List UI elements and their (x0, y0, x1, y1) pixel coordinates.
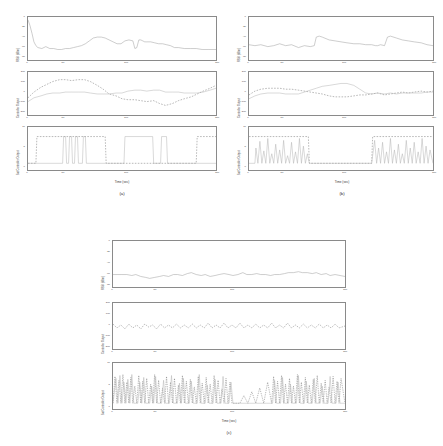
figure-root: RSSI (dBm) 0 -20 -40 -60 -80 0 50 100 15… (0, 0, 443, 446)
a-sat-xtick-1: 50 (59, 172, 67, 175)
b-rssi-panel (248, 16, 434, 61)
b-rssi-ytick-1: -20 (235, 26, 246, 29)
c-sat-xtick-3: 150 (341, 411, 349, 414)
c-sat-xtick-0: 0 (108, 411, 116, 414)
c-sat-panel (112, 362, 346, 410)
b-sat-xtick-0: 0 (244, 172, 252, 175)
a-caption: (a) (92, 192, 152, 196)
c-sat-xtick-2: 100 (228, 411, 236, 414)
c-sat-ytick-0: 10 (99, 362, 110, 365)
a-rssi-ytick-4: -80 (14, 56, 25, 59)
b-controller-panel (248, 71, 434, 116)
c-rssi-ytick-4: -80 (99, 284, 110, 287)
c-controller-ytick-1: 100 (97, 313, 110, 316)
c-controller-xtick-1: 50 (151, 351, 159, 354)
b-sat-xtick-1: 50 (278, 172, 286, 175)
b-sat-panel (248, 126, 434, 171)
c-rssi-xtick-1: 50 (151, 289, 159, 292)
c-rssi-xtick-3: 150 (341, 289, 349, 292)
c-controller-ytick-4: -200 (97, 346, 110, 349)
b-controller-ytick-3: -100 (233, 101, 246, 104)
c-sat-xtick-1: 50 (151, 411, 159, 414)
b-caption: (b) (312, 192, 372, 196)
subfigure-c: RSSI (dBm) 0 -20 -40 -60 -80 0 50 100 15… (88, 232, 355, 432)
c-sat-ytick-2: 0 (99, 406, 110, 409)
c-controller-ytick-0: 200 (97, 302, 110, 305)
b-rssi-ytick-4: -80 (235, 56, 246, 59)
a-rssi-ytick-1: -20 (14, 26, 25, 29)
c-xlabel: Time (sec) (199, 420, 259, 423)
a-rssi-ytick-2: -40 (14, 36, 25, 39)
b-rssi-xtick-0: 0 (244, 62, 252, 65)
a-rssi-xtick-2: 100 (122, 62, 130, 65)
b-controller-ytick-2: 0 (233, 91, 246, 94)
c-controller-panel (112, 302, 346, 350)
b-xlabel: Time (sec) (312, 181, 372, 184)
c-caption: (c) (199, 431, 259, 435)
a-controller-panel (27, 71, 217, 116)
b-controller-xtick-0: 0 (244, 117, 252, 120)
a-controller-xtick-2: 100 (122, 117, 130, 120)
b-sat-ytick-0: 10 (235, 126, 246, 129)
a-controller-xtick-0: 0 (23, 117, 31, 120)
b-rssi-xtick-3: 150 (430, 62, 438, 65)
subfigure-a: RSSI (dBm) 0 -20 -40 -60 -80 0 50 100 15… (0, 0, 222, 200)
b-sat-xtick-3: 150 (430, 172, 438, 175)
c-controller-xtick-3: 150 (341, 351, 349, 354)
a-controller-ytick-4: -200 (12, 111, 25, 114)
a-sat-ytick-2: 0 (14, 166, 25, 169)
b-rssi-ytick-3: -60 (235, 46, 246, 49)
a-rssi-xtick-0: 0 (23, 62, 31, 65)
b-sat-ylabel: Sat Controller Output (239, 151, 242, 175)
a-rssi-xtick-3: 150 (213, 62, 221, 65)
a-controller-ytick-2: 0 (12, 91, 25, 94)
b-rssi-xtick-1: 50 (278, 62, 286, 65)
a-sat-xtick-2: 100 (122, 172, 130, 175)
a-rssi-ytick-0: 0 (14, 16, 25, 19)
a-controller-ytick-1: 100 (12, 81, 25, 84)
a-controller-ytick-3: -100 (12, 101, 25, 104)
a-sat-xtick-0: 0 (23, 172, 31, 175)
b-rssi-ytick-2: -40 (235, 36, 246, 39)
b-sat-ytick-2: 0 (235, 166, 246, 169)
c-rssi-xtick-2: 100 (228, 289, 236, 292)
c-sat-ylabel: Sat Controller Output (103, 391, 106, 415)
a-rssi-ytick-3: -60 (14, 46, 25, 49)
c-rssi-ytick-0: 0 (99, 240, 110, 243)
subfigure-b: RSSI (dBm) 0 -20 -40 -60 -80 0 50 100 15… (222, 0, 443, 200)
b-controller-ytick-4: -200 (233, 111, 246, 114)
c-sat-ytick-1: 5 (99, 384, 110, 387)
b-controller-ytick-0: 200 (233, 71, 246, 74)
a-sat-ytick-0: 10 (14, 126, 25, 129)
b-controller-ytick-1: 100 (233, 81, 246, 84)
b-controller-xtick-2: 100 (340, 117, 348, 120)
b-sat-xtick-2: 100 (340, 172, 348, 175)
a-rssi-xtick-1: 50 (59, 62, 67, 65)
c-controller-xtick-0: 0 (108, 351, 116, 354)
b-rssi-ytick-0: 0 (235, 16, 246, 19)
c-controller-ytick-2: 0 (97, 324, 110, 327)
c-controller-ytick-3: -100 (97, 335, 110, 338)
a-controller-ytick-0: 200 (12, 71, 25, 74)
b-rssi-xtick-2: 100 (340, 62, 348, 65)
b-controller-xtick-1: 50 (278, 117, 286, 120)
c-rssi-ytick-2: -40 (99, 262, 110, 265)
a-sat-xtick-3: 150 (213, 172, 221, 175)
c-rssi-panel (112, 240, 346, 288)
a-sat-panel (27, 126, 217, 171)
b-controller-xtick-3: 150 (430, 117, 438, 120)
a-sat-ylabel: Sat Controller Output (18, 151, 21, 175)
a-controller-xtick-3: 150 (213, 117, 221, 120)
a-sat-ytick-1: 5 (14, 146, 25, 149)
c-rssi-xtick-0: 0 (108, 289, 116, 292)
b-sat-ytick-1: 5 (235, 146, 246, 149)
a-xlabel: Time (sec) (92, 181, 152, 184)
a-controller-xtick-1: 50 (59, 117, 67, 120)
a-rssi-panel (27, 16, 217, 61)
c-rssi-ytick-3: -60 (99, 273, 110, 276)
c-rssi-ytick-1: -20 (99, 251, 110, 254)
c-controller-xtick-2: 100 (228, 351, 236, 354)
